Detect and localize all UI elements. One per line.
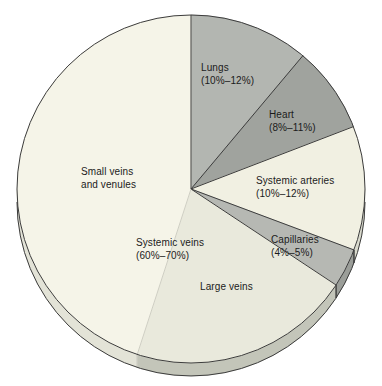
heart-label-range: (8%–11%): [269, 122, 316, 135]
blood-volume-pie-figure: Lungs (10%–12%) Heart (8%–11%) Systemic …: [0, 0, 382, 386]
systemic-veins-group-label: Systemic veins (60%–70%): [136, 237, 204, 262]
small-veins-label: Small veins and venules: [81, 166, 136, 191]
large-veins-label-name: Large veins: [200, 281, 253, 294]
capillaries-label: Capillaries (4%–5%): [271, 234, 319, 259]
systemic-arteries-label: Systemic arteries (10%–12%): [256, 175, 334, 200]
heart-label-name: Heart: [269, 109, 316, 122]
systemic-veins-label-range: (60%–70%): [136, 250, 204, 263]
large-veins-label: Large veins: [200, 281, 253, 294]
lungs-label-range: (10%–12%): [201, 75, 254, 88]
capillaries-label-name: Capillaries: [271, 234, 319, 247]
systemic-veins-label-name: Systemic veins: [136, 237, 204, 250]
systemic-arteries-label-range: (10%–12%): [256, 188, 334, 201]
lungs-label-name: Lungs: [201, 62, 254, 75]
lungs-label: Lungs (10%–12%): [201, 62, 254, 87]
small-veins-label-line1: Small veins: [81, 166, 136, 179]
systemic-arteries-label-name: Systemic arteries: [256, 175, 334, 188]
capillaries-label-range: (4%–5%): [271, 247, 319, 260]
small-veins-label-line2: and venules: [81, 179, 136, 192]
heart-label: Heart (8%–11%): [269, 109, 316, 134]
